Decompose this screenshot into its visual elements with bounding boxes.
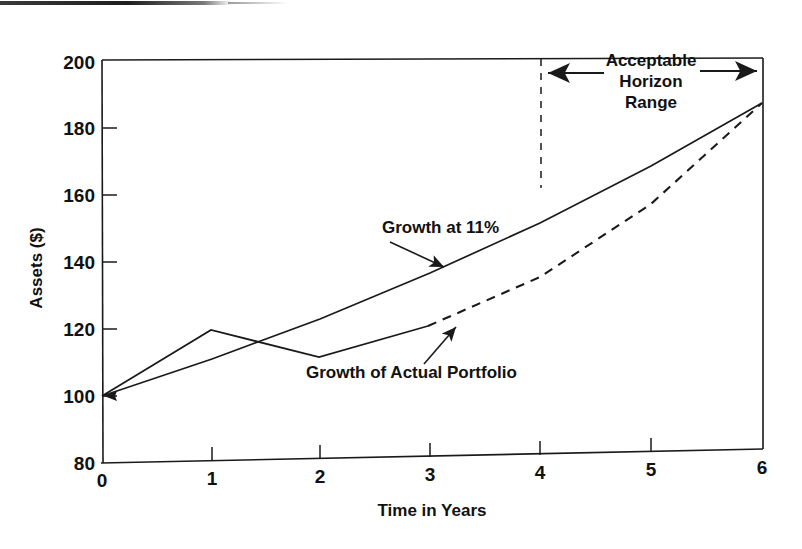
- y-tick-label-120: 120: [63, 319, 95, 340]
- y-tick-label-200: 200: [63, 52, 95, 73]
- x-tick-label-0: 0: [97, 470, 108, 491]
- x-tick-label-2: 2: [315, 466, 326, 487]
- y-axis-title: Assets ($): [27, 227, 46, 308]
- acceptable-horizon-range-marker: Acceptable Horizon Range: [548, 51, 757, 112]
- annotation-growth-label: Growth at 11%: [382, 218, 499, 237]
- annotation-actual-portfolio: Growth of Actual Portfolio: [306, 327, 517, 382]
- x-axis-title: Time in Years: [378, 501, 487, 520]
- x-tick-label-5: 5: [646, 459, 657, 480]
- x-tick-label-4: 4: [535, 462, 546, 483]
- plot-frame: [101, 58, 763, 463]
- chart-page: 200 180 160 140 120 100 80 0 1 2 3 4 5 6: [0, 0, 802, 549]
- y-tick-label-160: 160: [63, 185, 95, 206]
- series-actual-portfolio-dashed: [428, 103, 762, 326]
- assets-growth-line-chart: 200 180 160 140 120 100 80 0 1 2 3 4 5 6: [0, 0, 802, 549]
- annotation-growth-at-11-percent: Growth at 11%: [382, 218, 499, 267]
- y-tick-label-80: 80: [74, 453, 95, 474]
- range-label-line-2: Horizon: [619, 72, 682, 91]
- y-tick-label-100: 100: [63, 386, 95, 407]
- x-axis-line: [101, 449, 763, 463]
- series-actual-portfolio-solid: [102, 326, 428, 396]
- annotation-portfolio-label: Growth of Actual Portfolio: [306, 363, 517, 382]
- range-label-line-1: Acceptable: [606, 51, 697, 70]
- x-tick-label-3: 3: [425, 464, 436, 485]
- y-axis-tick-labels: 200 180 160 140 120 100 80: [63, 52, 95, 474]
- x-axis-tick-labels: 0 1 2 3 4 5 6: [97, 457, 768, 491]
- annotation-growth-leader-line: [390, 242, 444, 267]
- x-tick-label-1: 1: [207, 468, 218, 489]
- series-growth-at-11-percent: [102, 103, 762, 396]
- x-tick-label-6: 6: [757, 457, 768, 478]
- y-axis-line: [102, 60, 103, 463]
- y-tick-label-140: 140: [63, 252, 95, 273]
- range-label-line-3: Range: [625, 93, 677, 112]
- annotation-portfolio-leader-line: [424, 327, 456, 364]
- y-tick-label-180: 180: [63, 118, 95, 139]
- y-axis-ticks: [102, 61, 117, 463]
